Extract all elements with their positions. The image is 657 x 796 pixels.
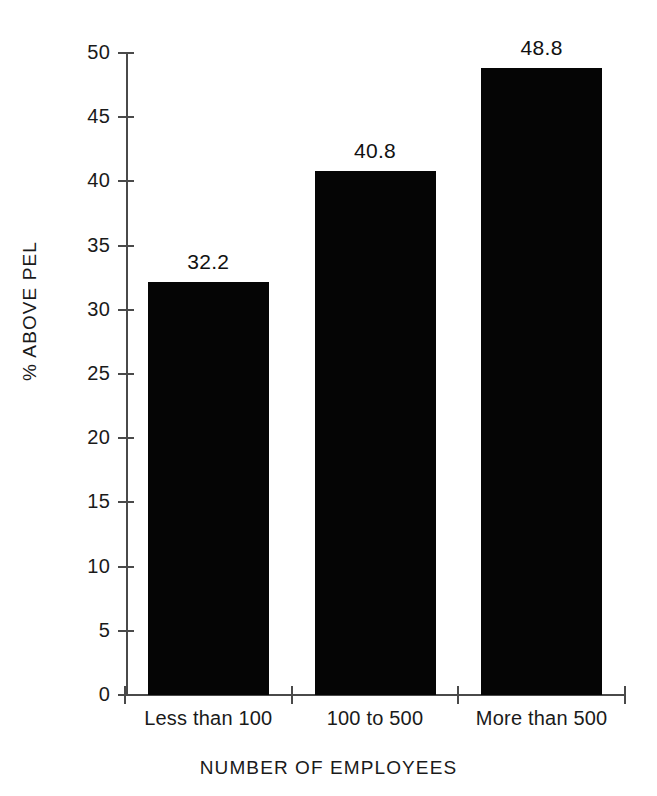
bar <box>481 68 602 695</box>
y-axis-tick <box>118 245 134 247</box>
x-axis-category-label: More than 500 <box>458 706 625 730</box>
x-axis-tick <box>624 686 626 704</box>
y-axis-tick <box>118 116 134 118</box>
y-axis-tick <box>118 373 134 375</box>
y-axis-tick-label: 30 <box>66 299 110 319</box>
y-axis-tick-label: 10 <box>66 556 110 576</box>
y-axis-title: % ABOVE PEL <box>19 201 41 421</box>
x-axis-category-label: 100 to 500 <box>292 706 459 730</box>
x-axis-tick <box>124 686 126 704</box>
x-axis-category-label: Less than 100 <box>125 706 292 730</box>
y-axis-tick-label: 15 <box>66 491 110 511</box>
x-axis-title: NUMBER OF EMPLOYEES <box>0 757 657 779</box>
bar-chart-figure: 05101520253035404550 32.240.848.8 Less t… <box>0 0 657 796</box>
x-axis-tick <box>291 686 293 704</box>
bar-value-label: 48.8 <box>482 37 602 58</box>
bar <box>315 171 436 695</box>
y-axis-tick <box>118 566 134 568</box>
y-axis-tick <box>118 180 134 182</box>
y-axis-tick-label: 50 <box>66 42 110 62</box>
x-axis-tick <box>457 686 459 704</box>
y-axis-tick <box>118 694 134 696</box>
bar-value-label: 40.8 <box>315 140 435 161</box>
y-axis-tick-label: 35 <box>66 235 110 255</box>
bar-value-label: 32.2 <box>148 251 268 272</box>
y-axis-tick-label: 5 <box>66 620 110 640</box>
y-axis-tick-label: 40 <box>66 170 110 190</box>
y-axis-tick <box>118 437 134 439</box>
y-axis-tick <box>118 52 134 54</box>
y-axis-tick-label: 25 <box>66 363 110 383</box>
bar <box>148 282 269 695</box>
y-axis-tick-label: 20 <box>66 427 110 447</box>
y-axis-tick <box>118 630 134 632</box>
y-axis-tick-label: 45 <box>66 106 110 126</box>
y-axis-tick <box>118 309 134 311</box>
y-axis-tick-label: 0 <box>66 684 110 704</box>
y-axis-tick <box>118 501 134 503</box>
